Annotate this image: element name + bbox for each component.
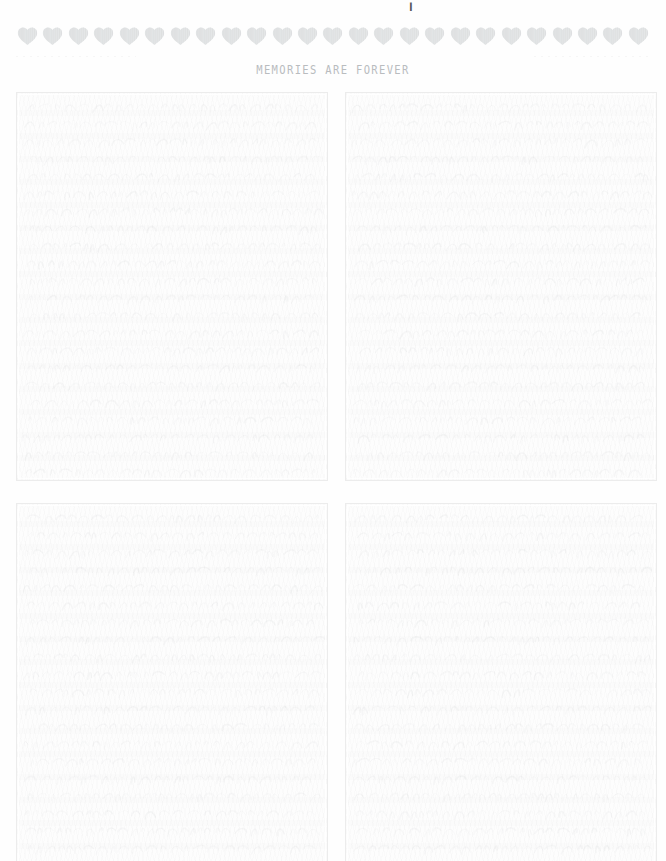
- heart-icon: [424, 26, 445, 46]
- heart-icon: [373, 26, 394, 46]
- photo-slot-bottom-right[interactable]: [345, 503, 657, 861]
- heart-icon: [42, 26, 63, 46]
- handwriting-texture: [346, 504, 656, 861]
- clipped-header-mark: ¦: [0, 0, 666, 12]
- heart-icon: [144, 26, 165, 46]
- heart-icon: [246, 26, 267, 46]
- heart-icon: [501, 26, 522, 46]
- photo-slot-top-left[interactable]: [16, 92, 328, 481]
- photo-grid: [16, 92, 657, 861]
- heart-icon: [68, 26, 89, 46]
- heart-icon: [93, 26, 114, 46]
- heart-icon: [119, 26, 140, 46]
- handwriting-texture: [17, 504, 327, 861]
- heart-icon: [272, 26, 293, 46]
- heart-icon: [170, 26, 191, 46]
- heart-icon: [475, 26, 496, 46]
- heart-icon: [297, 26, 318, 46]
- heart-icon: [577, 26, 598, 46]
- handwriting-texture: [346, 93, 656, 480]
- photo-slot-bottom-left[interactable]: [16, 503, 328, 861]
- page-caption: MEMORIES ARE FOREVER: [0, 63, 666, 76]
- heart-icon: [450, 26, 471, 46]
- scrapbook-page: ¦ MEMORIES ARE FOREVER: [0, 0, 666, 861]
- heart-icon: [526, 26, 547, 46]
- heart-icon: [552, 26, 573, 46]
- heart-icon: [221, 26, 242, 46]
- heart-icon: [399, 26, 420, 46]
- heart-icon: [628, 26, 649, 46]
- heart-icon: [602, 26, 623, 46]
- heart-icon: [322, 26, 343, 46]
- dashed-divider: [16, 56, 650, 58]
- header-glyph: ¦: [408, 0, 416, 10]
- heart-icon: [17, 26, 38, 46]
- heart-banner: [0, 20, 666, 52]
- heart-icon: [348, 26, 369, 46]
- handwriting-texture: [17, 93, 327, 480]
- photo-slot-top-right[interactable]: [345, 92, 657, 481]
- heart-icon: [195, 26, 216, 46]
